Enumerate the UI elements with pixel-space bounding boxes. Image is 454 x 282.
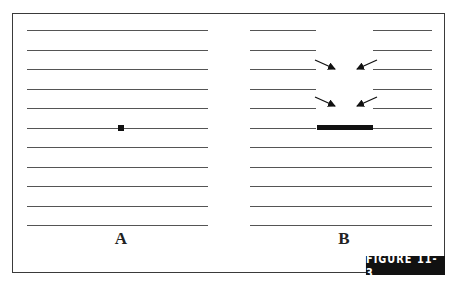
panel-b-label: B — [338, 229, 349, 249]
arrow-icon — [357, 97, 377, 106]
inward-arrows — [0, 0, 454, 282]
figure-number-text: FIGURE 11-3 — [366, 252, 445, 280]
arrow-icon — [357, 60, 377, 69]
arrow-icon — [315, 97, 335, 106]
figure-number-badge: FIGURE 11-3 — [366, 256, 445, 275]
arrow-icon — [315, 60, 335, 69]
panel-a-label: A — [115, 229, 127, 249]
